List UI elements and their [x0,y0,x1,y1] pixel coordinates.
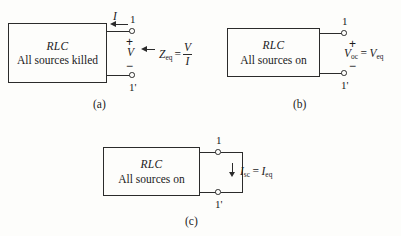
terminal-b-top-label: 1 [342,16,348,27]
rlc-box-a-subtitle: All sources killed [17,53,98,67]
terminal-c-bottom [215,189,221,195]
rlc-box-c-subtitle: All sources on [118,172,184,186]
terminal-a-top [129,28,135,34]
short-circuit-wire-top [221,152,243,153]
equals-sign-c: = [253,166,260,178]
terminal-a-bottom-label: 1' [129,82,136,93]
fraction-v-over-i: V I [183,41,192,67]
polarity-minus-b: − [349,60,356,72]
rlc-box-b-subtitle: All sources on [240,53,306,67]
rlc-box-a-title: RLC [47,39,69,53]
terminal-c-bottom-label: 1' [215,199,222,210]
equation-isc: Isc = Ieq [240,166,272,178]
rlc-box-b-title: RLC [263,38,285,52]
terminal-b-bottom [341,70,347,76]
terminal-a-top-label: 1 [130,14,136,25]
equals-sign-b: = [361,48,368,60]
terminal-b-top [341,30,347,36]
equals-sign-a: = [174,49,181,61]
caption-c: (c) [185,216,198,228]
current-label-a: I [113,11,117,23]
short-circuit-wire-bottom [221,192,243,193]
terminal-c-top [215,149,221,155]
rlc-box-a: RLC All sources killed [8,23,107,83]
terminal-c-top-label: 1 [216,135,222,146]
rlc-box-c-title: RLC [141,157,163,171]
rlc-box-c: RLC All sources on [103,147,200,196]
voltage-label-a: V [127,47,134,59]
polarity-minus-a: − [126,60,133,72]
equation-zeq: Zeq = V I [159,42,192,68]
caption-b: (b) [293,99,306,111]
rlc-box-b: RLC All sources on [227,28,320,77]
terminal-b-bottom-label: 1' [341,80,348,91]
equation-voc: Voc = Veq [344,48,384,60]
caption-a: (a) [93,99,106,111]
figure-canvas: RLC All sources killed 1 1' I + V − [0,0,401,236]
